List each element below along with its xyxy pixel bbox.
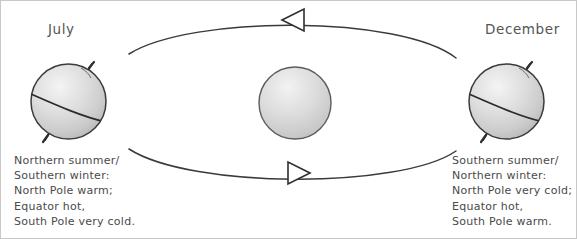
caption-line: Equator hot, (14, 199, 135, 214)
earth-december-north-pole-tip (527, 62, 532, 68)
caption-line: South Pole warm. (452, 214, 572, 229)
sun-body (259, 67, 331, 139)
caption-line: Southern summer/ (452, 153, 572, 168)
sun-sphere (259, 67, 331, 139)
earth-july (31, 62, 106, 142)
caption-line: Equator hot, (452, 199, 572, 214)
caption-july: Northern summer/ Southern winter: North … (14, 153, 135, 229)
arrow-right-icon (288, 162, 310, 184)
earth-july-sphere (31, 64, 106, 139)
arrow-left-icon (282, 9, 304, 31)
orbit-direction-arrow-bottom (288, 162, 310, 184)
caption-line: Northern summer/ (14, 153, 135, 168)
caption-december: Southern summer/ Northern winter: North … (452, 153, 572, 229)
orbit-direction-arrow-top (282, 9, 304, 31)
earth-july-north-pole-tip (89, 62, 94, 68)
label-july: July (48, 21, 75, 37)
caption-line: South Pole very cold. (14, 214, 135, 229)
earth-december (469, 62, 544, 142)
earth-july-south-pole-tip (43, 135, 48, 142)
seasons-diagram-canvas: July December Northern summer/ Southern … (0, 0, 577, 239)
label-december: December (485, 21, 560, 37)
orbit-arc-top (129, 25, 456, 58)
caption-line: North Pole warm; (14, 183, 135, 198)
caption-line: North Pole very cold; (452, 183, 572, 198)
caption-line: Southern winter: (14, 168, 135, 183)
earth-december-south-pole-tip (481, 135, 486, 142)
earth-december-sphere (469, 64, 544, 139)
caption-line: Northern winter: (452, 168, 572, 183)
